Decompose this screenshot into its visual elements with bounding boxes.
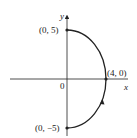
label-point-0-5: (0, 5) [39, 25, 59, 35]
direction-arrow-icon [100, 99, 105, 105]
origin-label: 0 [60, 81, 65, 91]
y-axis-label: y [59, 11, 64, 21]
label-point-4-0: (4, 0) [107, 68, 127, 78]
x-axis-label: x [123, 82, 128, 92]
label-point-0-neg5: (0, −5) [35, 123, 60, 133]
point-0-5 [65, 28, 68, 31]
diagram: y x 0 (0, 5) (4, 0) (0, −5) [0, 0, 137, 138]
point-0-neg5 [65, 126, 68, 129]
